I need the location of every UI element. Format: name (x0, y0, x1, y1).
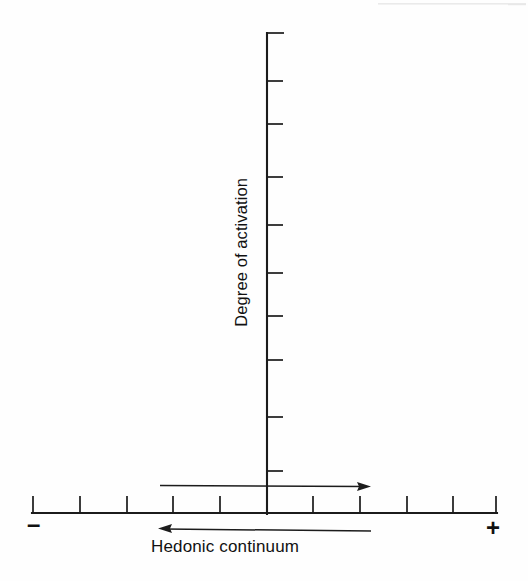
x-axis-group (32, 496, 497, 513)
y-axis-group (267, 33, 284, 514)
y-axis-ticks (267, 33, 284, 471)
figure-container: Degree of activation Hedonic continuum –… (0, 0, 528, 581)
upper-arrow-shaft (160, 486, 364, 487)
diagram-canvas (0, 0, 528, 581)
x-axis-label: Hedonic continuum (151, 537, 299, 557)
lower-arrow-head (158, 524, 172, 533)
y-axis-label: Degree of activation (232, 178, 251, 327)
upper-arrow-head (357, 482, 371, 491)
lower-arrow-shaft (165, 529, 371, 531)
x-axis-ticks (33, 496, 496, 513)
scan-edge-artifact (378, 3, 526, 5)
positive-pole-label: + (486, 516, 500, 540)
lower-arrow (158, 524, 371, 533)
negative-pole-label: – (27, 512, 40, 536)
upper-arrow (160, 482, 371, 491)
